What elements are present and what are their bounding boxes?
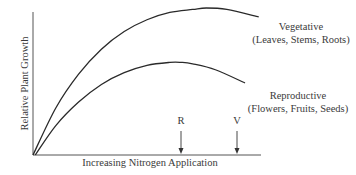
reproductive-title: Reproductive: [240, 89, 356, 102]
x-axis-label: Increasing Nitrogen Application: [40, 157, 260, 168]
reproductive-subtitle: (Flowers, Fruits, Seeds): [240, 102, 356, 115]
vegetative-title: Vegetative: [250, 20, 352, 33]
y-axis-label: Relative Plant Growth: [19, 24, 30, 144]
vegetative-curve: [33, 8, 259, 155]
vegetative-subtitle: (Leaves, Stems, Roots): [250, 33, 352, 46]
v-marker-label: V: [233, 115, 241, 126]
r-arrow: [179, 131, 184, 154]
vegetative-label: Vegetative (Leaves, Stems, Roots): [250, 20, 352, 46]
reproductive-curve: [35, 62, 245, 155]
reproductive-label: Reproductive (Flowers, Fruits, Seeds): [240, 89, 356, 115]
v-arrow: [235, 131, 240, 154]
r-marker-label: R: [177, 115, 184, 126]
